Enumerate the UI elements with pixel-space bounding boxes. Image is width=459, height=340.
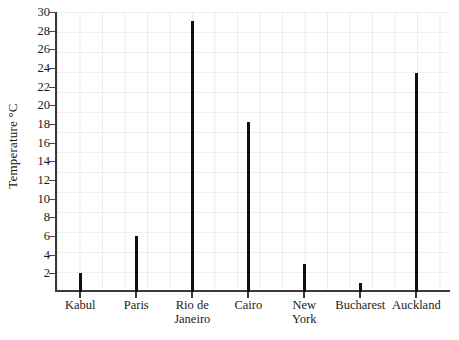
- x-axis-tick-mark: [79, 292, 81, 298]
- bar: [135, 236, 138, 292]
- x-axis-tick-mark: [415, 292, 417, 298]
- x-axis-tick-mark: [303, 292, 305, 298]
- y-axis-title: Temperature °C: [0, 0, 26, 292]
- x-axis-tick-mark: [191, 292, 193, 298]
- x-axis-category-label-line: Janeiro: [152, 312, 232, 326]
- x-axis-tick-mark: [359, 292, 361, 298]
- x-axis-tick-mark: [247, 292, 249, 298]
- bar: [191, 21, 194, 292]
- bar: [303, 264, 306, 292]
- x-axis-category-label-line: Auckland: [376, 298, 456, 312]
- x-axis-category-label: Auckland: [376, 298, 456, 312]
- bar: [79, 273, 82, 292]
- temperature-bar-chart: Temperature °C 2468101214161820222426283…: [0, 0, 459, 340]
- plot-area: [55, 12, 450, 292]
- bar: [247, 122, 250, 292]
- bar: [359, 283, 362, 292]
- x-axis-category-label-line: York: [264, 312, 344, 326]
- bar: [415, 73, 418, 292]
- x-axis-label-group: KabulParisRio deJaneiroCairoNewYorkBucha…: [0, 298, 459, 340]
- y-axis-title-text: Temperature °C: [5, 103, 21, 188]
- x-axis-tick-mark: [135, 292, 137, 298]
